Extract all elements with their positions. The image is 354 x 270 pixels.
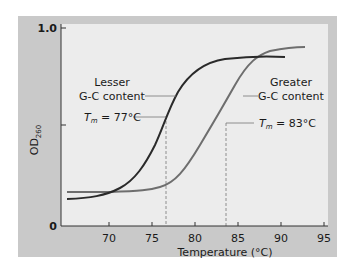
y-axis-title-main: OD xyxy=(28,138,41,155)
lesser-label-line2: G-C content xyxy=(79,90,145,103)
greater-label-line1: Greater xyxy=(270,76,312,89)
svg-text:OD260: OD260 xyxy=(28,125,43,156)
x-tick-label: 80 xyxy=(188,232,202,245)
x-axis-title: Temperature (°C) xyxy=(177,246,273,259)
greater-label-line2: G-C content xyxy=(258,90,324,103)
x-tick-label: 70 xyxy=(102,232,116,245)
y-tick-label-bottom: 0 xyxy=(49,220,57,233)
y-tick-label-top: 1.0 xyxy=(38,22,58,35)
melting-curve-chart: 1.0 0 70 75 80 85 90 95 Temperature (°C)… xyxy=(0,0,354,270)
x-tick-label: 90 xyxy=(274,232,288,245)
y-axis-title-sub: 260 xyxy=(35,125,43,138)
lesser-label-line1: Lesser xyxy=(94,76,130,89)
x-tick-label: 95 xyxy=(317,232,331,245)
y-axis-title: OD260 xyxy=(28,125,43,156)
x-tick-label: 75 xyxy=(145,232,159,245)
x-tick-label: 85 xyxy=(231,232,245,245)
